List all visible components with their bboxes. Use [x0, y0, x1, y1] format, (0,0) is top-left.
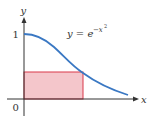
y-axis-label: y — [20, 5, 27, 16]
function-label-exponent-power: 2 — [104, 23, 107, 29]
y-tick-label-1: 1 — [13, 29, 19, 40]
origin-label: 0 — [13, 102, 19, 113]
y-axis-arrow-icon — [22, 17, 27, 23]
chart-canvas: y x 1 0 y = e −x 2 — [0, 0, 149, 119]
shaded-rectangle — [24, 72, 83, 99]
function-label-exponent: −x — [93, 26, 103, 34]
x-axis-arrow-icon — [133, 97, 139, 102]
function-label: y = e −x 2 — [66, 23, 107, 39]
x-axis-label: x — [141, 94, 147, 105]
function-label-lhs: y = e — [66, 28, 93, 39]
